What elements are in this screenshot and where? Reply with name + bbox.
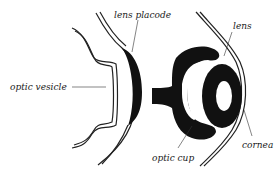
right-stage xyxy=(152,12,246,166)
eye-development-diagram: lens placode optic vesicle lens optic cu… xyxy=(0,0,277,175)
lens-placode-shape xyxy=(122,48,142,126)
leader-lens-placode xyxy=(132,20,138,52)
label-optic-vesicle: optic vesicle xyxy=(10,82,67,92)
label-lens-placode: lens placode xyxy=(114,10,171,20)
left-stage xyxy=(72,12,142,165)
label-lens: lens xyxy=(233,21,252,31)
leader-cornea xyxy=(244,110,252,136)
lens-cavity xyxy=(216,81,232,111)
label-optic-cup: optic cup xyxy=(152,153,194,163)
label-cornea: cornea xyxy=(242,140,273,150)
optic-vesicle-outer xyxy=(72,28,118,148)
